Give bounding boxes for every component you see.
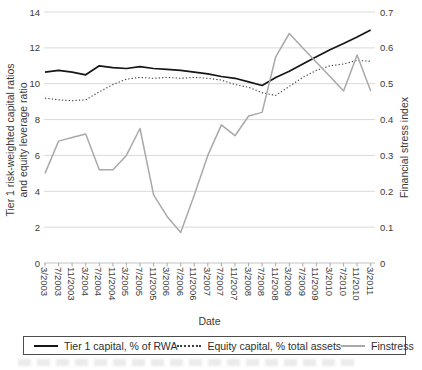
chart-figure: Tier 1 risk-weighted capital ratios and …: [0, 0, 422, 370]
legend-label-finstress: Finstress: [371, 340, 414, 352]
y-right-tick-label: 0.1: [380, 221, 414, 234]
y-right-tick-label: 0: [380, 257, 414, 270]
legend-item-equity: Equity capital, % total assets: [177, 340, 341, 352]
legend-label-equity: Equity capital, % total assets: [207, 340, 341, 352]
y-left-tick-label: 14: [10, 6, 40, 19]
y-right-tick-label: 0.2: [380, 185, 414, 198]
legend-item-finstress: Finstress: [341, 340, 414, 352]
y-left-tick-label: 12: [10, 41, 40, 54]
legend-item-tier1: Tier 1 capital, % of RWA: [34, 340, 177, 352]
faint-print-artifact: [18, 359, 358, 366]
y-left-tick-label: 2: [10, 221, 40, 234]
y-left-tick-label: 6: [10, 149, 40, 162]
legend-label-tier1: Tier 1 capital, % of RWA: [64, 340, 177, 352]
equity-line-swatch: [177, 345, 201, 347]
y-right-tick-label: 0.6: [380, 41, 414, 54]
y-right-tick-label: 0.7: [380, 6, 414, 19]
y-left-tick-label: 4: [10, 185, 40, 198]
tier1-line-swatch: [34, 345, 58, 347]
y-right-tick-label: 0.5: [380, 77, 414, 90]
y-left-tick-label: 10: [10, 77, 40, 90]
y-right-tick-label: 0.4: [380, 113, 414, 126]
right-axis-title: Financial stress index: [398, 68, 411, 228]
finstress-line-swatch: [341, 345, 365, 347]
x-axis-title: Date: [44, 315, 375, 327]
y-right-tick-label: 0.3: [380, 149, 414, 162]
y-left-tick-label: 8: [10, 113, 40, 126]
y-left-tick-label: 0: [10, 257, 40, 270]
legend: Tier 1 capital, % of RWA Equity capital,…: [23, 336, 406, 355]
